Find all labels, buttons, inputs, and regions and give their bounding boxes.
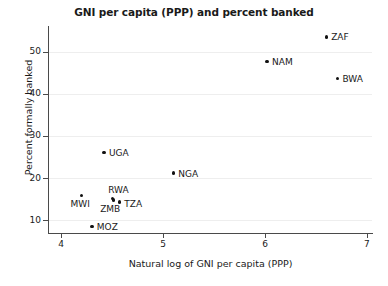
data-point-nga bbox=[172, 171, 175, 174]
gridline-y-30 bbox=[48, 136, 372, 137]
data-point-zaf bbox=[325, 35, 328, 38]
x-tick-mark-7 bbox=[367, 233, 368, 238]
plot-area: ZAFNAMBWAUGANGAMWIRWAZMBTZAMOZ bbox=[48, 28, 372, 232]
data-point-tza bbox=[118, 200, 121, 203]
y-tick-mark-40 bbox=[43, 94, 48, 95]
scatter-chart: GNI per capita (PPP) and percent banked … bbox=[0, 0, 388, 286]
data-point-mwi bbox=[80, 194, 83, 197]
data-point-label-bwa: BWA bbox=[342, 75, 362, 84]
data-point-label-uga: UGA bbox=[109, 149, 129, 158]
data-point-label-moz: MOZ bbox=[97, 223, 118, 232]
data-point-label-nga: NGA bbox=[178, 170, 198, 179]
data-point-label-zaf: ZAF bbox=[331, 33, 349, 42]
gridline-y-50 bbox=[48, 52, 372, 53]
y-tick-mark-50 bbox=[43, 52, 48, 53]
data-point-label-rwa: RWA bbox=[108, 186, 128, 195]
y-tick-mark-30 bbox=[43, 136, 48, 137]
y-tick-mark-10 bbox=[43, 220, 48, 221]
data-point-bwa bbox=[336, 77, 339, 80]
x-axis-line bbox=[48, 233, 373, 234]
data-point-moz bbox=[90, 225, 93, 228]
data-point-zmb bbox=[112, 198, 115, 201]
x-tick-mark-5 bbox=[163, 233, 164, 238]
data-point-uga bbox=[102, 151, 105, 154]
x-tick-label-4: 4 bbox=[58, 240, 64, 249]
y-tick-label-10: 10 bbox=[30, 216, 41, 225]
data-point-nam bbox=[265, 60, 268, 63]
data-point-label-mwi: MWI bbox=[71, 200, 90, 209]
data-point-label-tza: TZA bbox=[124, 200, 142, 209]
gridline-y-40 bbox=[48, 94, 372, 95]
gridline-y-20 bbox=[48, 178, 372, 179]
data-point-label-nam: NAM bbox=[272, 58, 293, 67]
x-tick-mark-4 bbox=[61, 233, 62, 238]
chart-title: GNI per capita (PPP) and percent banked bbox=[0, 6, 388, 18]
data-point-label-zmb: ZMB bbox=[100, 205, 120, 214]
x-tick-mark-6 bbox=[265, 233, 266, 238]
x-tick-label-5: 5 bbox=[160, 240, 166, 249]
x-tick-label-6: 6 bbox=[262, 240, 268, 249]
x-tick-label-7: 7 bbox=[364, 240, 370, 249]
y-tick-mark-20 bbox=[43, 178, 48, 179]
x-axis-label: Natural log of GNI per capita (PPP) bbox=[48, 258, 373, 269]
y-axis-line bbox=[48, 26, 49, 234]
y-axis-label: Percent formally banked bbox=[23, 38, 34, 198]
